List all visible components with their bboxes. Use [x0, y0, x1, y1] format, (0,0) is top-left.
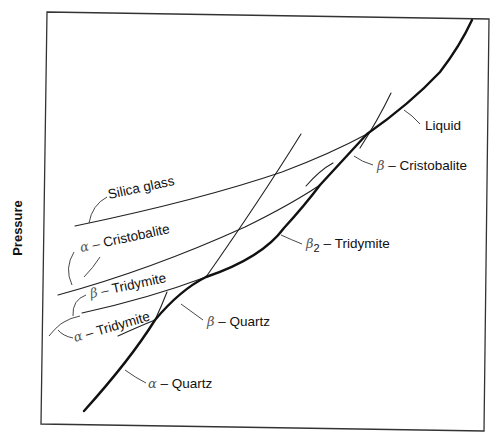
dash: –: [157, 376, 172, 391]
leader-beta-cristobalite: [354, 156, 373, 165]
leader-liquid: [404, 110, 420, 124]
phase-name: Tridymite: [111, 270, 168, 296]
label-beta-tridymite: β – Tridymite: [88, 270, 168, 301]
y-axis-label: Pressure: [10, 200, 25, 256]
leader-beta2-tridymite: [281, 235, 302, 244]
label-beta-quartz: β – Quartz: [206, 314, 270, 329]
phase-name: Cristobalite: [102, 221, 171, 250]
phase-name: Quartz: [172, 376, 213, 391]
phase-name: Cristobalite: [400, 158, 468, 173]
label-alpha-quartz: α – Quartz: [148, 376, 213, 391]
dash: –: [215, 314, 230, 329]
beta-symbol: β: [305, 236, 314, 251]
label-silica-glass: Silica glass: [107, 173, 176, 202]
boundary-line-alpha-tridymite: [155, 292, 167, 320]
dash: –: [385, 158, 400, 173]
beta-symbol: β: [376, 158, 385, 173]
beta-symbol: β: [206, 314, 215, 329]
dash: –: [320, 236, 335, 251]
leader-alpha-cristobalite: [68, 252, 100, 285]
leader-silica-glass: [89, 197, 107, 223]
label-alpha-cristobalite: α – Cristobalite: [79, 221, 171, 255]
label-beta-cristobalite: β – Cristobalite: [376, 158, 467, 173]
plot-frame: [41, 12, 489, 431]
label-beta2-tridymite: β2 – Tridymite: [305, 236, 390, 254]
phase-name: Quartz: [230, 314, 271, 329]
phase-name: Tridymite: [335, 236, 390, 251]
label-liquid: Liquid: [425, 118, 461, 133]
curve-main-melting: [84, 20, 472, 411]
leader-alpha-quartz: [125, 370, 146, 383]
alpha-symbol: α: [148, 376, 157, 391]
leader-beta-quartz: [181, 304, 203, 320]
phase-diagram: Pressure Liquid β – Cristobalite β2 – Tr…: [0, 0, 494, 441]
